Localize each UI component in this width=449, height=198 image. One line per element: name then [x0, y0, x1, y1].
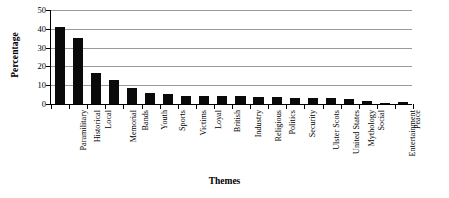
y-axis-tick-labels: 01020304050 — [26, 10, 48, 104]
y-axis-tick-label: 40 — [38, 25, 47, 34]
y-axis-title: Percentage — [4, 0, 26, 110]
x-axis-tick-mark — [413, 104, 414, 109]
bar — [73, 38, 83, 104]
x-axis-title: Themes — [0, 176, 449, 186]
y-axis-title-text: Percentage — [10, 32, 20, 78]
bar-slot — [268, 10, 286, 104]
x-label-slot: United States — [322, 109, 340, 171]
x-axis-category-labels: ParamilitaryHistoricalLocalMemorialBands… — [51, 109, 413, 171]
plot-area — [50, 10, 412, 104]
y-axis-tick-mark — [46, 85, 50, 86]
bar-slot — [394, 10, 412, 104]
bar — [272, 97, 282, 104]
bar — [127, 88, 137, 104]
x-label-slot: Bands — [123, 109, 141, 171]
bar — [109, 80, 119, 104]
bar — [163, 94, 173, 104]
bar-slot — [87, 10, 105, 104]
bar-slot — [213, 10, 231, 104]
x-label-slot: Industry — [232, 109, 250, 171]
bar-slot — [105, 10, 123, 104]
bar-slot — [250, 10, 268, 104]
bar-slot — [141, 10, 159, 104]
bar-chart: Percentage 01020304050 ParamilitaryHisto… — [0, 0, 449, 198]
x-label-slot: Security — [286, 109, 304, 171]
x-label-slot: Entertainment — [377, 109, 395, 171]
x-axis-category-label: Peace — [413, 110, 421, 129]
x-label-slot: Mythology — [341, 109, 359, 171]
y-axis-tick-label: 20 — [38, 62, 47, 71]
y-axis-tick-label: 30 — [38, 43, 47, 52]
bar-slot — [159, 10, 177, 104]
x-label-slot: Youth — [141, 109, 159, 171]
bar — [145, 93, 155, 104]
y-axis-tick-label: 10 — [38, 81, 47, 90]
x-label-slot: British — [214, 109, 232, 171]
y-axis-tick-mark — [46, 29, 50, 30]
y-axis-tick-label: 50 — [38, 6, 47, 15]
x-label-slot: Loyal — [196, 109, 214, 171]
x-label-slot: Paramilitary — [51, 109, 69, 171]
bar-slot — [358, 10, 376, 104]
y-axis-tick-mark — [46, 10, 50, 11]
bar — [217, 96, 227, 104]
bar — [55, 27, 65, 104]
bar — [235, 96, 245, 104]
x-label-slot: Memorial — [105, 109, 123, 171]
bar-slot — [322, 10, 340, 104]
x-label-slot: Historical — [69, 109, 87, 171]
x-label-slot: Ulster Scots — [304, 109, 322, 171]
x-label-slot: Victims — [178, 109, 196, 171]
bar-series — [51, 10, 412, 104]
x-label-slot: Politics — [268, 109, 286, 171]
bar-slot — [286, 10, 304, 104]
bar-slot — [195, 10, 213, 104]
y-axis-tick-mark — [46, 48, 50, 49]
bar — [253, 97, 263, 104]
y-axis-tick-marks — [46, 10, 50, 104]
bar-slot — [304, 10, 322, 104]
bar-slot — [51, 10, 69, 104]
x-label-slot: Social — [359, 109, 377, 171]
bar — [181, 96, 191, 104]
x-label-slot: Religious — [250, 109, 268, 171]
bar-slot — [177, 10, 195, 104]
bar-slot — [69, 10, 87, 104]
x-label-slot: Local — [87, 109, 105, 171]
y-axis-tick-mark — [46, 66, 50, 67]
x-label-slot: Sports — [160, 109, 178, 171]
x-label-slot: Peace — [395, 109, 413, 171]
y-axis-tick-mark — [46, 104, 50, 105]
bar — [199, 96, 209, 104]
bar-slot — [340, 10, 358, 104]
bar — [91, 73, 101, 104]
bar-slot — [376, 10, 394, 104]
bar-slot — [231, 10, 249, 104]
bar-slot — [123, 10, 141, 104]
